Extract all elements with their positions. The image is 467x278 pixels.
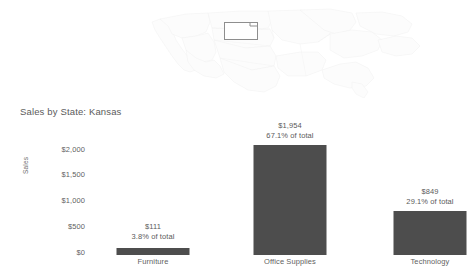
bar-value-label-furniture: $111 3.8% of total (132, 222, 175, 241)
us-map-svg[interactable] (0, 0, 467, 98)
us-states-base (152, 9, 420, 98)
map-panel (0, 0, 467, 98)
y-tick-label: $1,000 (15, 196, 85, 205)
y-tick-label: $1,500 (15, 170, 85, 179)
bar-value-percent: 67.1% of total (266, 131, 313, 141)
bar-value-label-office-supplies: $1,954 67.1% of total (266, 121, 313, 140)
category-label-office-supplies: Office Supplies (264, 257, 316, 266)
y-tick-label: $0 (15, 248, 85, 257)
bar-value-label-technology: $849 29.1% of total (406, 187, 453, 206)
bar-office-supplies[interactable] (254, 145, 327, 255)
bar-value-amount: $111 (145, 222, 161, 231)
bar-value-amount: $849 (421, 187, 438, 196)
bar-technology[interactable] (394, 211, 467, 255)
state-mid-atlantic (378, 36, 420, 56)
bar-group-furniture: $111 3.8% of total Furniture (92, 98, 214, 255)
y-tick-label: $2,000 (15, 145, 85, 154)
category-label-furniture: Furniture (138, 257, 169, 266)
y-tick-label: $500 (15, 222, 85, 231)
bar-value-percent: 3.8% of total (132, 232, 175, 242)
bar-value-amount: $1,954 (278, 121, 302, 130)
kansas-highlight-shape[interactable] (225, 23, 258, 40)
plot-area: $111 3.8% of total Furniture $1,954 67.1… (92, 98, 461, 278)
state-appalachia (330, 30, 382, 58)
bar-furniture[interactable] (117, 248, 190, 255)
bar-value-percent: 29.1% of total (406, 197, 453, 207)
bar-group-office-supplies: $1,954 67.1% of total Office Supplies (229, 98, 351, 255)
y-axis-ticks: $2,000 $1,500 $1,000 $500 $0 (15, 98, 85, 278)
bar-group-technology: $849 29.1% of total Technology (369, 98, 467, 255)
state-south-central (276, 52, 326, 76)
bar-chart-panel: Sales by State: Kansas Sales $2,000 $1,5… (0, 98, 467, 278)
category-label-technology: Technology (411, 257, 450, 266)
state-southeast (322, 62, 374, 88)
